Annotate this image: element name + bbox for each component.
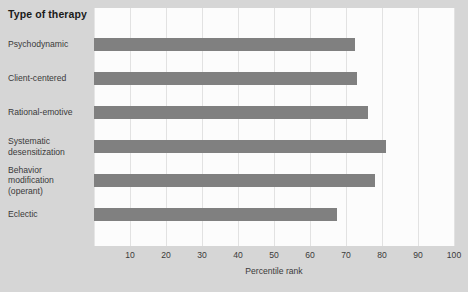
bar xyxy=(94,140,386,153)
category-label-line: Rational-emotive xyxy=(8,107,94,118)
x-tick-label: 30 xyxy=(187,250,217,260)
category-label: Client-centered xyxy=(8,73,94,84)
category-label: Behaviormodification(operant) xyxy=(8,165,94,197)
chart-title: Type of therapy xyxy=(8,8,87,20)
x-axis-title: Percentile rank xyxy=(0,266,468,276)
gridline xyxy=(418,8,419,246)
x-tick-label: 100 xyxy=(439,250,468,260)
category-label: Rational-emotive xyxy=(8,107,94,118)
x-axis-title-text: Percentile rank xyxy=(165,266,302,276)
x-tick-label: 20 xyxy=(151,250,181,260)
bar xyxy=(94,106,368,119)
bar xyxy=(94,208,337,221)
gridline xyxy=(382,8,383,246)
bar xyxy=(94,72,357,85)
category-label-column: Type of therapy PsychodynamicClient-cent… xyxy=(0,0,94,256)
x-tick-label: 70 xyxy=(331,250,361,260)
category-label: Eclectic xyxy=(8,209,94,220)
category-label-line: modification xyxy=(8,175,94,186)
plot-area xyxy=(94,8,454,246)
category-label-line: (operant) xyxy=(8,186,94,197)
x-tick-label: 10 xyxy=(115,250,145,260)
category-label: Systematicdesensitization xyxy=(8,136,94,157)
category-label-line: Eclectic xyxy=(8,209,94,220)
category-label-line: Behavior xyxy=(8,165,94,176)
x-tick-label: 90 xyxy=(403,250,433,260)
category-label-line: Psychodynamic xyxy=(8,39,94,50)
bar-chart: Type of therapy PsychodynamicClient-cent… xyxy=(0,0,468,292)
x-tick-label: 60 xyxy=(295,250,325,260)
x-tick-label: 50 xyxy=(259,250,289,260)
bar xyxy=(94,174,375,187)
category-label-line: desensitization xyxy=(8,147,94,158)
x-tick-label: 80 xyxy=(367,250,397,260)
category-label: Psychodynamic xyxy=(8,39,94,50)
category-label-line: Systematic xyxy=(8,136,94,147)
gridline xyxy=(454,8,455,246)
category-label-line: Client-centered xyxy=(8,73,94,84)
x-tick-label: 40 xyxy=(223,250,253,260)
bar xyxy=(94,38,355,51)
